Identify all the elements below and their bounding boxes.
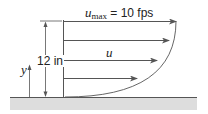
velocity-profile-curve <box>65 21 176 97</box>
dimension-arrow-bottom-icon <box>44 92 48 98</box>
y-axis-label: y <box>21 63 27 76</box>
height-dimension-label: 12 in <box>36 55 64 67</box>
dimension-arrow-top-icon <box>44 22 48 28</box>
velocity-label: u <box>106 46 113 59</box>
umax-label: umax = 10 fps <box>85 6 153 21</box>
ground-surface <box>10 98 197 110</box>
y-axis-arrow-icon <box>28 65 32 71</box>
